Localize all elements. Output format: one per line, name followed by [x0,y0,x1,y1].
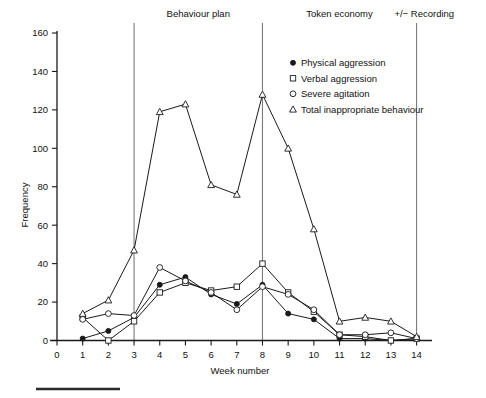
chart-figure: 020406080100120140160 012345678910111213… [0,0,486,398]
y-tick-label: 80 [37,181,48,192]
y-tick-label: 40 [37,258,48,269]
x-axis-title: Week number [211,365,270,376]
y-tick-label: 0 [43,335,48,346]
data-point-open-triangle [233,191,240,197]
legend-item: Physical aggression [291,57,386,68]
phase-divider-lines [134,23,417,341]
data-point-filled-circle [286,311,291,316]
y-tick-label: 140 [32,66,48,77]
data-point-open-circle [362,332,368,338]
x-tick-label: 3 [131,349,136,360]
data-point-open-circle [157,265,163,271]
legend-marker-open-triangle [290,106,297,112]
phase-label: +/− Recording [394,8,454,19]
data-point-open-square [234,284,239,289]
y-axis-title: Frequency [19,182,30,227]
legend-marker-open-square [290,76,295,81]
y-tick-label: 120 [32,104,48,115]
y-tick-label: 100 [32,143,48,154]
x-tick-label: 9 [286,349,291,360]
series-total-inappropriate-behaviour [79,91,420,339]
data-point-open-square [106,338,111,343]
data-point-open-circle [208,290,214,296]
data-point-open-triangle [259,91,266,97]
y-tick-label: 160 [32,27,48,38]
data-point-filled-circle [80,336,85,341]
series-polyline [83,95,417,337]
x-tick-label: 13 [386,349,397,360]
data-point-open-triangle [285,145,292,151]
data-point-open-circle [183,278,189,284]
data-point-open-circle [311,307,317,313]
x-tick-label: 1 [80,349,85,360]
frequency-line-chart: 020406080100120140160 012345678910111213… [0,0,486,398]
data-point-filled-circle [234,301,239,306]
x-tick-label: 0 [54,349,59,360]
series-severe-agitation [80,265,420,342]
legend-item: Verbal aggression [290,73,377,84]
x-tick-label: 2 [106,349,111,360]
data-point-filled-circle [106,328,111,333]
data-point-open-circle [260,284,266,290]
x-tick-label: 7 [234,349,239,360]
data-series [79,91,420,343]
data-point-open-triangle [310,226,317,232]
x-tick-label: 5 [183,349,188,360]
legend-item: Severe agitation [290,88,370,99]
data-point-open-circle [388,330,394,336]
data-point-filled-circle [157,282,162,287]
legend-label: Verbal aggression [301,73,377,84]
data-point-open-triangle [362,314,369,320]
data-point-open-triangle [131,247,138,253]
series-polyline [83,267,417,338]
x-tick-label: 8 [260,349,265,360]
y-axis-ticks: 020406080100120140160 [32,27,57,346]
data-point-open-triangle [208,181,215,187]
data-point-open-square [260,261,265,266]
x-tick-label: 10 [309,349,320,360]
phase-label: Behaviour plan [167,8,230,19]
series-polyline [83,264,417,341]
chart-legend: Physical aggressionVerbal aggressionSeve… [290,57,424,115]
data-point-open-circle [131,313,137,319]
data-point-open-square [131,319,136,324]
y-tick-label: 20 [37,296,48,307]
data-point-open-circle [234,307,240,313]
data-point-open-circle [285,291,291,297]
data-point-open-square [157,290,162,295]
data-point-open-circle [105,311,111,317]
phase-label: Token economy [306,8,373,19]
data-point-open-triangle [105,297,112,303]
data-point-open-square [388,338,393,343]
data-point-open-circle [337,332,343,338]
phase-labels: Behaviour planToken economy+/− Recording [167,8,455,19]
data-point-filled-circle [311,317,316,322]
x-tick-label: 12 [360,349,371,360]
data-point-open-triangle [79,310,86,316]
x-tick-label: 4 [157,349,162,360]
series-physical-aggression [80,275,419,343]
legend-label: Total inappropriate behaviour [301,104,424,115]
legend-item: Total inappropriate behaviour [290,104,424,115]
x-tick-label: 11 [335,349,345,360]
legend-marker-open-circle [290,91,296,97]
legend-label: Physical aggression [301,57,386,68]
series-verbal-aggression [80,261,419,343]
x-tick-label: 6 [208,349,213,360]
legend-label: Severe agitation [301,88,370,99]
series-polyline [83,277,417,340]
data-point-open-circle [80,316,86,322]
legend-marker-filled-circle [291,60,296,65]
x-tick-label: 14 [411,349,422,360]
data-point-open-triangle [182,101,189,107]
y-tick-label: 60 [37,220,48,231]
